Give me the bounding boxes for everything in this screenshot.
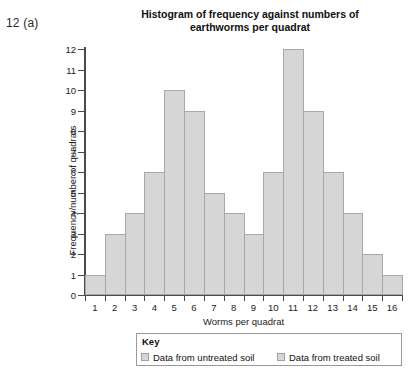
histogram-bar <box>144 172 165 295</box>
x-axis-tick-label: 10 <box>268 302 279 313</box>
x-axis-tick-label: 8 <box>231 302 236 313</box>
x-axis-tick <box>125 295 126 301</box>
histogram-bar <box>184 111 205 296</box>
y-axis-tick-labels: 0123456789101112 <box>58 0 76 370</box>
x-axis-tick-label: 5 <box>172 302 177 313</box>
x-axis-tick-label: 1 <box>92 302 97 313</box>
x-axis-tick-label: 13 <box>327 302 338 313</box>
x-axis-tick-label: 12 <box>308 302 319 313</box>
histogram-bar <box>343 213 364 295</box>
legend-item-treated: Data from treated soil <box>277 350 380 364</box>
x-axis-tick <box>144 295 145 301</box>
legend-item-label: Data from treated soil <box>289 352 380 363</box>
histogram-bar <box>164 90 185 295</box>
legend-item-untreated: Data from untreated soil <box>141 350 254 364</box>
legend-swatch-icon <box>277 353 285 361</box>
histogram-bar <box>263 172 284 295</box>
histogram-bar <box>85 275 106 296</box>
x-axis-tick <box>362 295 363 301</box>
y-axis-tick-label: 9 <box>71 105 76 116</box>
histogram-bar <box>244 234 265 296</box>
bar-series <box>85 49 402 295</box>
histogram-bar <box>204 193 225 296</box>
x-axis-tick <box>323 295 324 301</box>
histogram-bar <box>303 111 324 296</box>
x-axis-tick-label: 9 <box>251 302 256 313</box>
legend-swatch-icon <box>141 353 149 361</box>
x-axis-tick-label: 15 <box>367 302 378 313</box>
y-axis-tick-label: 6 <box>71 167 76 178</box>
x-axis-tick <box>184 295 185 301</box>
x-axis-tick <box>263 295 264 301</box>
histogram-bar <box>382 275 403 296</box>
x-axis-tick <box>382 295 383 301</box>
y-axis-tick-label: 12 <box>65 44 76 55</box>
legend-item-label: Data from untreated soil <box>153 352 254 363</box>
y-axis-tick-label: 1 <box>71 269 76 280</box>
x-axis-tick-label: 16 <box>387 302 398 313</box>
y-axis-tick-label: 3 <box>71 228 76 239</box>
x-axis-tick-label: 14 <box>347 302 358 313</box>
legend-box: Key Data from untreated soil Data from t… <box>136 333 402 366</box>
x-axis-tick <box>343 295 344 301</box>
x-axis-tick <box>164 295 165 301</box>
x-axis-tick <box>204 295 205 301</box>
x-axis-tick-label: 6 <box>191 302 196 313</box>
y-axis-tick-label: 5 <box>71 187 76 198</box>
x-axis-tick-label: 2 <box>112 302 117 313</box>
histogram-bar <box>125 213 146 295</box>
x-axis-tick <box>303 295 304 301</box>
y-axis-tick-label: 10 <box>65 85 76 96</box>
x-axis-tick <box>105 295 106 301</box>
histogram-bar <box>362 254 383 295</box>
y-axis-title-wrapper: Frequency/number of quadrats <box>32 80 48 250</box>
y-axis-tick-label: 11 <box>66 64 76 75</box>
histogram-figure: Histogram of frequency against numbers o… <box>0 0 419 370</box>
x-axis-tick <box>85 295 86 301</box>
x-axis-tick <box>283 295 284 301</box>
x-axis-tick-label: 11 <box>288 302 298 313</box>
plot-area <box>85 49 402 295</box>
x-axis-tick-label: 7 <box>211 302 216 313</box>
y-axis-tick-label: 2 <box>71 249 76 260</box>
y-axis-tick-label: 7 <box>71 146 76 157</box>
histogram-bar <box>283 49 304 295</box>
x-axis-tick-label: 4 <box>152 302 157 313</box>
histogram-bar <box>105 234 126 296</box>
x-axis-title: Worms per quadrat <box>85 316 402 327</box>
y-axis-tick-label: 8 <box>71 126 76 137</box>
x-axis-tick <box>224 295 225 301</box>
x-axis-tick <box>402 295 403 301</box>
histogram-bar <box>224 213 245 295</box>
legend-title: Key <box>142 336 159 347</box>
histogram-bar <box>323 172 344 295</box>
x-axis-tick-label: 3 <box>132 302 137 313</box>
y-axis-tick-label: 0 <box>71 290 76 301</box>
chart-title: Histogram of frequency against numbers o… <box>110 8 390 34</box>
x-axis-tick <box>244 295 245 301</box>
y-axis-tick-label: 4 <box>71 208 76 219</box>
